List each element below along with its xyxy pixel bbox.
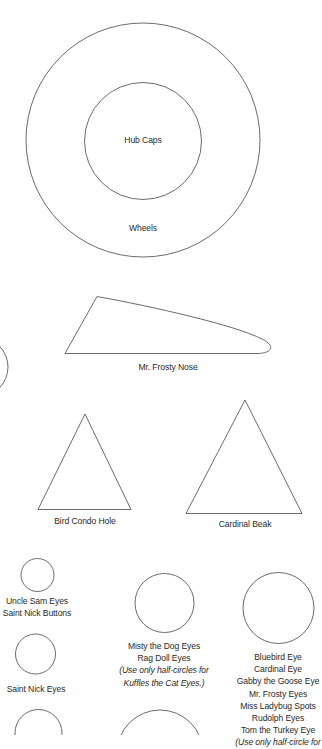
misty-eyes-circle — [135, 574, 194, 633]
cardinal-beak-triangle — [186, 400, 302, 514]
uncle-sam-eyes-circle — [21, 559, 54, 592]
bluebird-eye-label: Bluebird Eye Cardinal Eye Gabby the Goos… — [228, 651, 322, 749]
hub-caps-label: Hub Caps — [103, 134, 183, 146]
bottom-middle-circle — [117, 710, 203, 735]
uncle-sam-eyes-label: Uncle Sam Eyes Saint Nick Buttons — [0, 595, 82, 619]
bird-condo-hole-label: Bird Condo Hole — [35, 515, 135, 527]
bluebird-eye-circle — [243, 573, 314, 644]
bird-condo-hole-triangle — [38, 414, 131, 510]
wheels-label: Wheels — [103, 222, 183, 234]
mr-frosty-nose-label: Mr. Frosty Nose — [118, 361, 218, 373]
saint-nick-eyes-label: Saint Nick Eyes — [0, 683, 81, 695]
saint-nick-eyes-circle — [16, 634, 56, 674]
misty-eyes-label: Misty the Dog Eyes Rag Doll Eyes (Use on… — [109, 640, 219, 689]
bottom-left-circle — [15, 710, 62, 736]
cardinal-beak-label: Cardinal Beak — [195, 518, 295, 530]
mr-frosty-nose-shape — [65, 297, 271, 354]
partial-circle-left — [0, 337, 8, 397]
